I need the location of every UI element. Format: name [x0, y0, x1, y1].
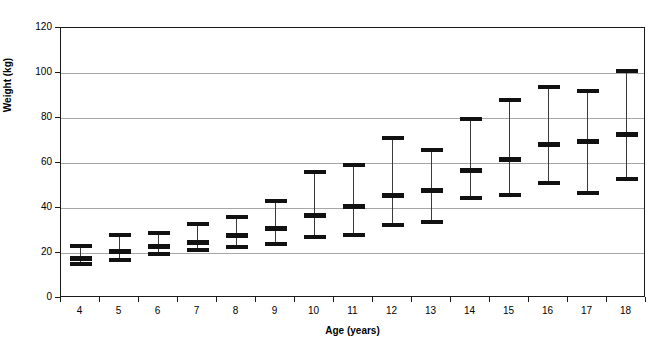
y-tick-label: 40 — [12, 202, 52, 212]
x-tick-label: 13 — [414, 306, 448, 316]
marker-stem — [353, 165, 355, 235]
x-tick-label: 9 — [258, 306, 292, 316]
y-tick-label: 60 — [12, 157, 52, 167]
y-tick-mark — [55, 72, 60, 73]
x-tick-mark — [372, 297, 373, 302]
marker-bar-median — [70, 256, 92, 261]
marker-stem — [392, 138, 394, 225]
x-tick-label: 6 — [141, 306, 175, 316]
marker-bar-upper — [265, 199, 287, 203]
gridline — [61, 73, 644, 74]
x-tick-label: 15 — [492, 306, 526, 316]
marker-bar-upper — [421, 148, 443, 152]
marker-bar-median — [109, 249, 131, 254]
marker-bar-upper — [616, 69, 638, 73]
marker-bar-median — [577, 139, 599, 144]
y-tick-label: 80 — [12, 112, 52, 122]
marker-bar-upper — [148, 231, 170, 235]
marker-bar-upper — [109, 233, 131, 237]
marker-stem — [626, 71, 628, 179]
x-tick-mark — [99, 297, 100, 302]
marker-bar-upper — [382, 136, 404, 140]
x-tick-mark — [645, 297, 646, 302]
y-tick-mark — [55, 252, 60, 253]
x-tick-mark — [450, 297, 451, 302]
marker-bar-median — [187, 240, 209, 245]
x-tick-mark — [177, 297, 178, 302]
marker-bar-median — [616, 132, 638, 137]
marker-bar-lower — [109, 258, 131, 262]
marker-bar-lower — [421, 220, 443, 224]
marker-stem — [119, 235, 121, 260]
marker-bar-median — [382, 193, 404, 198]
x-tick-mark — [489, 297, 490, 302]
marker-bar-median — [343, 204, 365, 209]
y-tick-label: 120 — [12, 22, 52, 32]
y-tick-mark — [55, 207, 60, 208]
marker-bar-lower — [70, 262, 92, 266]
marker-bar-upper — [70, 244, 92, 248]
marker-bar-lower — [577, 191, 599, 195]
x-axis-title: Age (years) — [60, 325, 645, 336]
x-tick-label: 4 — [63, 306, 97, 316]
marker-bar-upper — [304, 170, 326, 174]
x-tick-label: 18 — [609, 306, 643, 316]
marker-bar-upper — [538, 85, 560, 89]
x-tick-mark — [411, 297, 412, 302]
x-tick-label: 16 — [531, 306, 565, 316]
x-tick-label: 8 — [219, 306, 253, 316]
marker-bar-lower — [343, 233, 365, 237]
x-tick-mark — [60, 297, 61, 302]
chart-figure: Weight (kg) 020406080100120 456789101112… — [0, 0, 659, 352]
x-tick-label: 17 — [570, 306, 604, 316]
y-axis-title: Weight (kg) — [2, 30, 22, 140]
x-tick-mark — [333, 297, 334, 302]
marker-bar-median — [148, 244, 170, 249]
marker-bar-upper — [499, 98, 521, 102]
marker-bar-upper — [343, 163, 365, 167]
marker-bar-lower — [148, 252, 170, 256]
x-tick-mark — [606, 297, 607, 302]
y-tick-label: 20 — [12, 247, 52, 257]
marker-stem — [470, 119, 472, 198]
y-tick-label: 0 — [12, 292, 52, 302]
x-tick-mark — [255, 297, 256, 302]
x-tick-mark — [138, 297, 139, 302]
marker-bar-median — [499, 157, 521, 162]
marker-bar-upper — [460, 117, 482, 121]
x-tick-mark — [294, 297, 295, 302]
marker-bar-median — [265, 226, 287, 231]
marker-bar-median — [304, 213, 326, 218]
x-tick-label: 14 — [453, 306, 487, 316]
marker-stem — [314, 172, 316, 237]
marker-bar-lower — [499, 193, 521, 197]
marker-bar-upper — [187, 222, 209, 226]
plot-area — [60, 27, 645, 297]
marker-bar-lower — [187, 248, 209, 252]
x-tick-label: 11 — [336, 306, 370, 316]
marker-bar-lower — [382, 223, 404, 227]
y-tick-label: 100 — [12, 67, 52, 77]
marker-bar-lower — [538, 181, 560, 185]
marker-bar-upper — [577, 89, 599, 93]
y-tick-mark — [55, 27, 60, 28]
x-tick-mark — [567, 297, 568, 302]
y-tick-mark — [55, 117, 60, 118]
x-tick-mark — [216, 297, 217, 302]
marker-bar-median — [538, 142, 560, 147]
marker-stem — [509, 100, 511, 195]
x-tick-label: 5 — [102, 306, 136, 316]
marker-bar-lower — [304, 235, 326, 239]
marker-stem — [275, 201, 277, 244]
marker-bar-median — [226, 233, 248, 238]
marker-bar-lower — [265, 242, 287, 246]
marker-bar-lower — [616, 177, 638, 181]
x-tick-mark — [528, 297, 529, 302]
x-tick-label: 12 — [375, 306, 409, 316]
marker-bar-lower — [460, 196, 482, 200]
marker-bar-median — [460, 168, 482, 173]
marker-bar-lower — [226, 245, 248, 249]
x-tick-label: 10 — [297, 306, 331, 316]
marker-bar-median — [421, 188, 443, 193]
gridline — [61, 118, 644, 119]
